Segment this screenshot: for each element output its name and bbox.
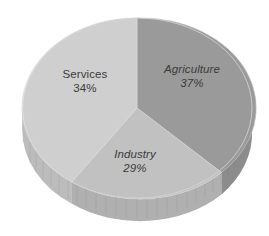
pie-label-agriculture-value: 37%: [152, 77, 232, 91]
pie-label-services-value: 34%: [45, 82, 125, 96]
pie-label-industry: Industry 29%: [94, 148, 176, 175]
pie-label-agriculture-name: Agriculture: [152, 63, 232, 77]
pie-label-services: Services 34%: [45, 68, 125, 95]
pie-chart-graphic: [0, 0, 269, 236]
pie-label-industry-name: Industry: [94, 148, 176, 162]
pie-label-services-name: Services: [45, 68, 125, 82]
pie-label-agriculture: Agriculture 37%: [152, 63, 232, 90]
pie-chart-figure: Agriculture 37% Services 34% Industry 29…: [0, 0, 269, 236]
pie-label-industry-value: 29%: [94, 162, 176, 176]
